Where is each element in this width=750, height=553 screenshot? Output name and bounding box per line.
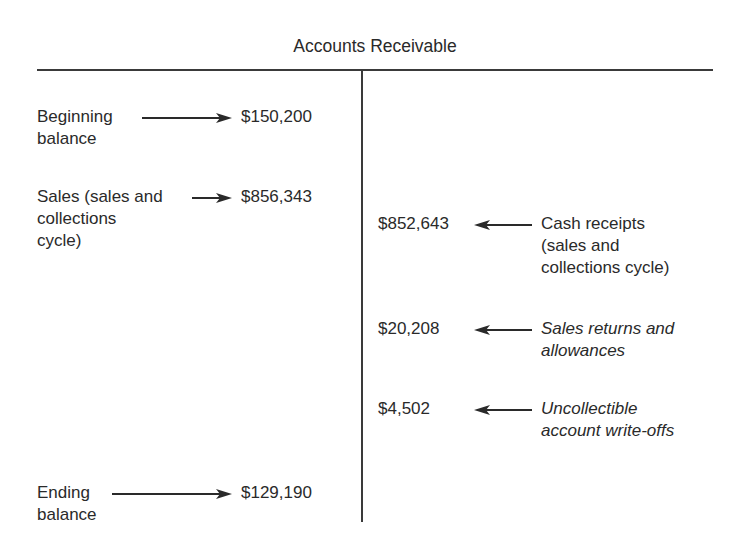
debit-amount: $150,200 <box>241 106 312 128</box>
credit-label: Sales returns and allowances <box>541 318 674 362</box>
debit-amount: $129,190 <box>241 482 312 504</box>
t-account-vertical-line <box>361 70 363 522</box>
credit-amount: $20,208 <box>378 318 439 340</box>
arrow-right-icon <box>142 112 232 124</box>
t-account-horizontal-line <box>37 69 713 71</box>
credit-amount: $4,502 <box>378 398 430 420</box>
credit-label: Cash receipts (sales and collections cyc… <box>541 213 670 279</box>
arrow-left-icon <box>474 219 532 231</box>
credit-label: Uncollectible account write-offs <box>541 398 674 442</box>
account-title: Accounts Receivable <box>0 36 750 57</box>
arrow-right-icon <box>112 488 232 500</box>
debit-amount: $856,343 <box>241 186 312 208</box>
debit-label: Beginning balance <box>37 106 113 150</box>
debit-label: Ending balance <box>37 482 97 526</box>
credit-amount: $852,643 <box>378 213 449 235</box>
arrow-left-icon <box>474 324 532 336</box>
debit-label: Sales (sales and collections cycle) <box>37 186 163 252</box>
arrow-right-icon <box>192 192 232 204</box>
arrow-left-icon <box>474 404 532 416</box>
